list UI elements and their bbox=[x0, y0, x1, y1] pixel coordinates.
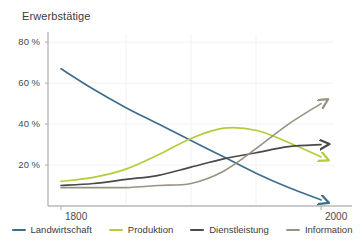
legend-item-dienstleistung[interactable]: Dienstleistung bbox=[190, 224, 269, 235]
y-axis-tick-label: 60 % bbox=[6, 77, 40, 88]
legend-swatch-icon bbox=[286, 229, 300, 231]
y-axis-tick-label: 80 % bbox=[6, 36, 40, 47]
legend-swatch-icon bbox=[109, 229, 123, 231]
legend-label: Information bbox=[305, 224, 353, 235]
legend-swatch-icon bbox=[12, 229, 26, 231]
chart-plot-area bbox=[0, 0, 364, 247]
legend-item-landwirtschaft[interactable]: Landwirtschaft bbox=[12, 224, 92, 235]
legend-label: Landwirtschaft bbox=[31, 224, 92, 235]
y-axis-tick-label: 20 % bbox=[6, 159, 40, 170]
legend-label: Produktion bbox=[128, 224, 173, 235]
gridlines bbox=[48, 34, 334, 206]
x-axis-tick-label: 1800 bbox=[65, 211, 87, 222]
legend-swatch-icon bbox=[190, 229, 204, 231]
legend-item-produktion[interactable]: Produktion bbox=[109, 224, 173, 235]
chart-container: Erwerbstätige 80 %60 %40 %20 %18002000 L… bbox=[0, 0, 364, 247]
legend-label: Dienstleistung bbox=[209, 224, 269, 235]
legend-item-information[interactable]: Information bbox=[286, 224, 353, 235]
chart-legend: LandwirtschaftProduktionDienstleistungIn… bbox=[0, 224, 364, 235]
x-axis-tick-label: 2000 bbox=[325, 211, 347, 222]
y-axis-tick-label: 40 % bbox=[6, 118, 40, 129]
